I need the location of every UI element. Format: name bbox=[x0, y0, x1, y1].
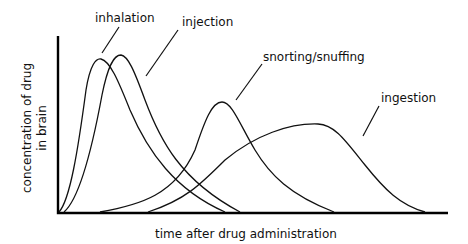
label-snorting: snorting/snuffing bbox=[263, 50, 365, 64]
label-inhalation: inhalation bbox=[95, 11, 155, 25]
y-axis-label-line2: in brain bbox=[35, 105, 49, 151]
drug-concentration-chart: inhalation injection snorting/snuffing i… bbox=[0, 0, 468, 244]
leader-inhalation bbox=[102, 27, 119, 53]
curve-injection bbox=[64, 55, 240, 212]
curve-ingestion bbox=[148, 124, 425, 212]
x-axis-label: time after drug administration bbox=[155, 227, 337, 241]
y-axis-label: concentration of drug in brain bbox=[20, 63, 49, 193]
leader-injection bbox=[146, 30, 178, 76]
label-ingestion: ingestion bbox=[381, 91, 436, 105]
chart-axes bbox=[58, 36, 448, 213]
leader-snorting bbox=[236, 64, 262, 100]
label-injection: injection bbox=[182, 15, 233, 29]
curve-snorting-snuffing bbox=[100, 102, 334, 212]
leader-ingestion bbox=[363, 106, 379, 136]
y-axis-label-line1: concentration of drug bbox=[20, 63, 34, 193]
